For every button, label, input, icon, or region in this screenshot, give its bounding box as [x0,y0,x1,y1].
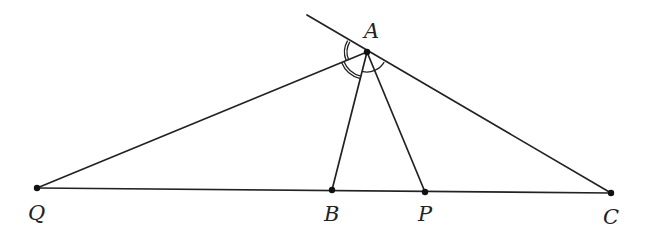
angle-mark-ext-aq [344,41,349,61]
point-a [364,49,370,55]
label-c: C [603,205,619,229]
label-q: Q [28,201,45,225]
line-extension-ca [307,15,611,193]
angle-mark-aq-ab [342,62,361,79]
label-p: P [417,202,433,226]
point-b [329,187,335,193]
point-p [422,189,428,195]
geometry-diagram: A Q B P C [0,0,652,237]
segment-ap [367,52,425,192]
point-c [608,190,614,196]
segment-qc [37,188,611,193]
segment-aq [37,52,367,188]
point-q [34,185,40,191]
label-a: A [362,19,379,43]
label-b: B [323,202,339,226]
